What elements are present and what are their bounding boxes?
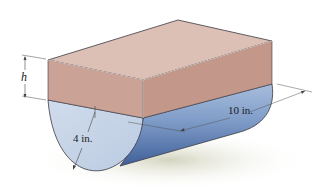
length-label: 10 in. xyxy=(228,104,253,116)
height-label: h xyxy=(21,70,27,84)
radius-label: 4 in. xyxy=(73,132,93,144)
block-on-half-cylinder-diagram: h 4 in. 10 in. xyxy=(0,0,329,193)
dimension-h: h xyxy=(21,55,46,100)
